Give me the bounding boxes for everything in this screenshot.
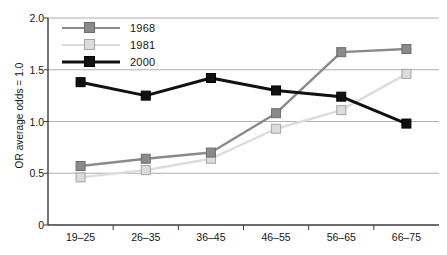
- data-point-1968-36–45: [206, 148, 215, 157]
- data-point-2000-46–55: [272, 86, 281, 95]
- legend-label-2000: 2000: [130, 56, 155, 68]
- series-2000: [76, 74, 411, 129]
- x-tick-label: 36–45: [176, 231, 246, 243]
- legend-marker-2000: [84, 56, 95, 67]
- legend-item-2000[interactable]: 2000: [62, 53, 155, 70]
- data-point-1981-66–75: [402, 69, 411, 78]
- series-1981: [76, 69, 411, 182]
- data-point-2000-36–45: [206, 74, 215, 83]
- data-point-1968-19–25: [76, 162, 85, 171]
- data-point-1981-46–55: [272, 124, 281, 133]
- x-tick-label: 66–75: [371, 231, 441, 243]
- series-line-1981: [81, 74, 407, 178]
- legend-label-1981: 1981: [130, 39, 155, 51]
- chart-container: OR average odds = 1.0 00.51.01.52.0 19–2…: [0, 0, 447, 255]
- data-point-2000-66–75: [402, 119, 411, 128]
- legend-swatch-1981: [62, 38, 120, 52]
- data-point-1968-66–75: [402, 45, 411, 54]
- data-point-1981-56–65: [337, 106, 346, 115]
- data-point-1981-19–25: [76, 173, 85, 182]
- legend-swatch-1968: [62, 21, 120, 35]
- x-tick-label: 46–55: [241, 231, 311, 243]
- data-point-2000-26–35: [141, 91, 150, 100]
- x-tick-label: 56–65: [306, 231, 376, 243]
- x-tick-label: 26–35: [111, 231, 181, 243]
- data-point-1968-46–55: [272, 109, 281, 118]
- data-point-1968-26–35: [141, 154, 150, 163]
- data-point-2000-19–25: [76, 78, 85, 87]
- legend-swatch-2000: [62, 55, 120, 69]
- x-tick-label: 19–25: [46, 231, 116, 243]
- data-point-2000-56–65: [337, 92, 346, 101]
- legend-marker-1968: [84, 22, 95, 33]
- data-point-1981-26–35: [141, 166, 150, 175]
- legend-marker-1981: [84, 39, 95, 50]
- chart-legend: 196819812000: [60, 17, 161, 72]
- x-axis-tick-labels: 19–2526–3536–4546–5556–6566–75: [48, 231, 439, 253]
- legend-label-1968: 1968: [130, 22, 155, 34]
- legend-item-1968[interactable]: 1968: [62, 19, 155, 36]
- legend-item-1981[interactable]: 1981: [62, 36, 155, 53]
- data-point-1968-56–65: [337, 48, 346, 57]
